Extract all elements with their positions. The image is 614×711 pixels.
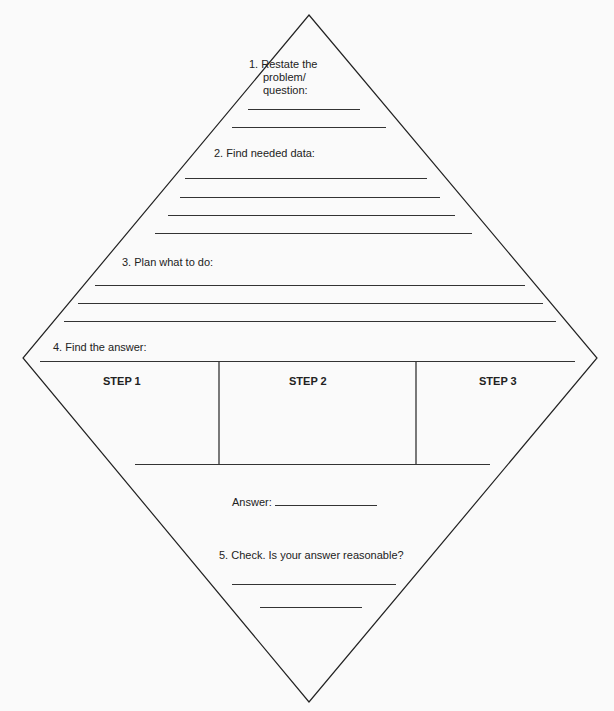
find-data-line-3[interactable] bbox=[168, 215, 455, 216]
plan-line-3[interactable] bbox=[64, 321, 556, 322]
answer-line[interactable] bbox=[275, 505, 377, 506]
restate-input-line-2[interactable] bbox=[232, 127, 386, 128]
plan-line-1[interactable] bbox=[95, 285, 525, 286]
check-line-2[interactable] bbox=[260, 607, 362, 608]
find-data-label: 2. Find needed data: bbox=[214, 147, 315, 160]
check-line-1[interactable] bbox=[232, 584, 396, 585]
find-data-line-4[interactable] bbox=[155, 233, 472, 234]
steps-bottom-line bbox=[135, 464, 490, 465]
plan-label: 3. Plan what to do: bbox=[122, 256, 213, 269]
restate-input-line-1[interactable] bbox=[248, 109, 360, 110]
check-label: 5. Check. Is your answer reasonable? bbox=[219, 549, 404, 562]
step-3-heading: STEP 3 bbox=[479, 375, 517, 388]
restate-label-1: 1. Restate the bbox=[249, 58, 318, 71]
answer-label: Answer: bbox=[232, 496, 272, 509]
step-1-heading: STEP 1 bbox=[103, 375, 141, 388]
restate-label-2: problem/ bbox=[263, 71, 306, 84]
steps-top-line bbox=[40, 361, 575, 362]
find-answer-label: 4. Find the answer: bbox=[53, 341, 147, 354]
step-2-heading: STEP 2 bbox=[289, 375, 327, 388]
restate-label-3: question: bbox=[263, 84, 308, 97]
find-data-line-1[interactable] bbox=[185, 178, 427, 179]
plan-line-2[interactable] bbox=[78, 303, 543, 304]
find-data-line-2[interactable] bbox=[180, 197, 440, 198]
diamond-frame bbox=[0, 0, 614, 711]
